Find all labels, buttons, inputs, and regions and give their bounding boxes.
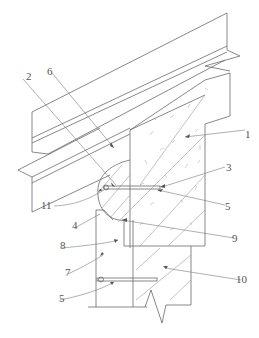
label-1: 1	[245, 128, 251, 140]
label-5-right: 5	[225, 200, 231, 212]
label-8: 8	[60, 239, 66, 251]
lower-wall	[88, 210, 191, 323]
label-2: 2	[26, 70, 32, 82]
label-5-left: 5	[59, 292, 65, 304]
label-9: 9	[232, 232, 238, 244]
label-11: 11	[41, 199, 52, 211]
label-4: 4	[72, 219, 78, 231]
concrete-block	[124, 73, 230, 248]
leader-lines	[23, 73, 245, 300]
label-3: 3	[226, 161, 232, 173]
section-drawing: 2 6 1 3 5 11 4 9 8 7 10 5	[0, 0, 259, 338]
label-7: 7	[65, 266, 71, 278]
anchor-bolt-lower	[97, 277, 157, 282]
upper-profile	[32, 13, 240, 154]
label-6: 6	[47, 65, 53, 77]
label-10: 10	[236, 273, 248, 285]
